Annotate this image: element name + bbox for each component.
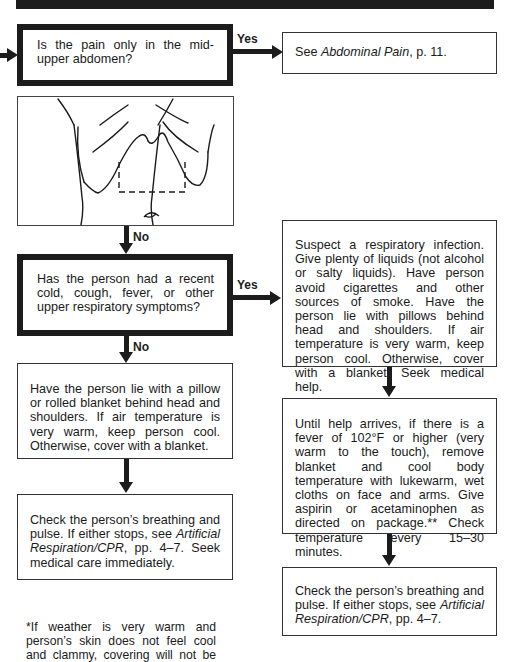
question-text: Has the person had a recent cold, cough,… [37,272,214,314]
abdominal-pain-link[interactable]: Abdominal Pain [321,45,409,59]
question-respiratory-symptoms: Has the person had a recent cold, cough,… [17,254,233,336]
no-arrow-icon [119,243,133,254]
flow-arrow-line [387,534,392,556]
no-label: No [133,340,149,354]
no-arrow-icon [119,352,133,363]
flow-arrow-line [387,367,392,387]
instruction-fever-care: Until help arrives, if there is a fever … [282,398,497,534]
yes-arrow-line [233,295,271,300]
torso-drawing-icon [18,97,233,225]
header-rule [16,0,494,9]
yes-arrow-icon [270,291,281,305]
instruction-respiratory-infection: Suspect a respiratory infection. Give pl… [282,220,497,367]
torso-illustration [17,96,234,226]
instruction-check-breathing-seek-care: Check the person’s breathing and pulse. … [17,494,233,580]
question-text: Is the pain only in the mid-upper abdome… [37,38,214,66]
flow-arrow-icon [382,386,396,397]
no-label: No [133,230,149,244]
yes-label: Yes [237,32,258,46]
result-abdominal-pain: See Abdominal Pain, p. 11. [282,32,497,74]
no-arrow-line [124,226,129,244]
flow-arrow-icon [119,482,133,493]
instruction-check-breathing: Check the person’s breathing and pulse. … [282,567,497,636]
instruction-lie-with-pillow: Have the person lie with a pillow or rol… [17,363,233,459]
yes-arrow-line [233,49,273,54]
footnote: *If weather is very warm and person’s sk… [26,620,216,662]
flow-arrow-line [124,459,129,483]
question-mid-upper-pain: Is the pain only in the mid-upper abdome… [17,24,233,86]
yes-label: Yes [237,278,258,292]
flow-arrow-icon [382,555,396,566]
